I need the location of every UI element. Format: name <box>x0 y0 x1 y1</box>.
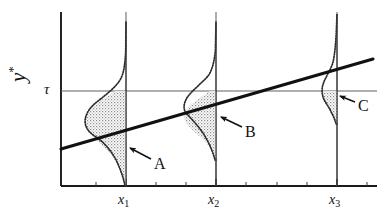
x-tick-label-x1-sub: 1 <box>124 198 129 209</box>
y-axis-label-base: y <box>6 73 30 82</box>
threshold-label-tau: τ <box>44 82 49 97</box>
arrow-to-region-b <box>221 117 242 127</box>
distribution-x3-group <box>322 14 337 186</box>
distribution-x2-group <box>184 22 216 186</box>
y-axis-label: y* <box>6 66 29 82</box>
x-tick-label-x2-sub: 2 <box>214 198 219 209</box>
figure-container: A B C y* τ x1 x2 x3 <box>0 0 386 221</box>
region-label-c: C <box>358 97 369 114</box>
x-tick-label-x3-sub: 3 <box>335 198 340 209</box>
region-label-b: B <box>245 123 256 140</box>
arrow-to-region-a <box>130 148 151 159</box>
region-label-a: A <box>154 155 166 172</box>
annotation-arrows <box>130 96 355 159</box>
shaded-area-a <box>85 91 126 186</box>
x-tick-label-x1: x1 <box>118 193 129 207</box>
distribution-x1-group <box>85 22 126 186</box>
x-axis-major-ticks <box>126 179 337 186</box>
arrow-to-region-c <box>340 96 355 102</box>
plot-canvas: A B C <box>0 0 386 221</box>
y-axis-label-superscript: * <box>5 66 20 73</box>
x-tick-label-x2: x2 <box>208 193 219 207</box>
x-tick-label-x3: x3 <box>329 193 340 207</box>
